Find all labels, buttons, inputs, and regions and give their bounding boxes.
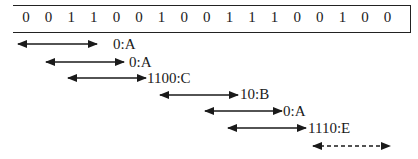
- parse-label: 0:A: [113, 36, 136, 53]
- parse-arrows: [0, 0, 418, 159]
- parse-label: 1100:C: [147, 70, 191, 87]
- parse-label: 0:A: [283, 103, 306, 120]
- parse-label: 0:A: [129, 54, 152, 71]
- parse-label: 1110:E: [308, 120, 350, 137]
- parse-label: 10:B: [240, 86, 269, 103]
